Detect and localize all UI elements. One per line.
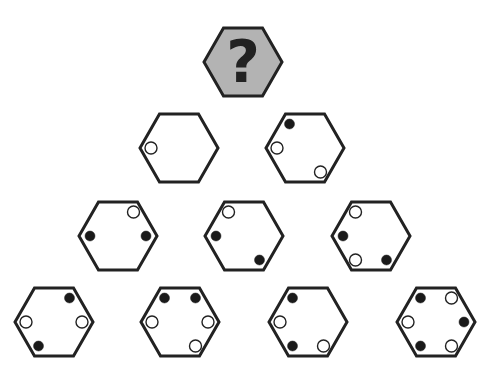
white-dot-br	[315, 166, 327, 178]
white-dot-l	[402, 316, 414, 328]
black-dot-r	[459, 317, 469, 327]
hexagon-tile-r3-4	[397, 288, 475, 356]
hexagon-tile-r2-2	[205, 202, 283, 270]
black-dot-tr	[65, 293, 75, 303]
white-dot-l	[271, 142, 283, 154]
black-dot-br	[255, 255, 265, 265]
white-dot-l	[20, 316, 32, 328]
black-dot-tr	[191, 293, 201, 303]
hexagon-tile-r3-3	[269, 288, 347, 356]
hexagon-puzzle-diagram: ?	[0, 0, 501, 390]
hexagon-tile-r1-2	[266, 114, 344, 182]
white-dot-br	[190, 340, 202, 352]
black-dot-r	[141, 231, 151, 241]
hexagon-tile-r3-2	[141, 288, 219, 356]
black-dot-bl	[288, 341, 298, 351]
hexagon-tile-r3-1	[15, 288, 93, 356]
white-dot-tl	[350, 206, 362, 218]
black-dot-tl	[160, 293, 170, 303]
white-dot-tl	[223, 206, 235, 218]
hexagon-pyramid	[15, 114, 475, 356]
black-dot-br	[382, 255, 392, 265]
white-dot-bl	[350, 254, 362, 266]
white-dot-r	[202, 316, 214, 328]
black-dot-tl	[285, 119, 295, 129]
question-hexagon: ?	[204, 28, 282, 96]
black-dot-tl	[288, 293, 298, 303]
white-dot-l	[274, 316, 286, 328]
hexagon-tile-r1-1	[140, 114, 218, 182]
black-dot-l	[211, 231, 221, 241]
white-dot-br	[446, 340, 458, 352]
question-mark-icon: ?	[226, 28, 260, 96]
black-dot-bl	[34, 341, 44, 351]
white-dot-br	[318, 340, 330, 352]
black-dot-bl	[416, 341, 426, 351]
white-dot-l	[146, 316, 158, 328]
white-dot-tr	[128, 206, 140, 218]
black-dot-l	[338, 231, 348, 241]
black-dot-l	[85, 231, 95, 241]
white-dot-tr	[446, 292, 458, 304]
black-dot-tl	[416, 293, 426, 303]
white-dot-l	[145, 142, 157, 154]
white-dot-r	[76, 316, 88, 328]
hexagon-tile-r2-3	[332, 202, 410, 270]
hexagon-tile-r2-1	[79, 202, 157, 270]
